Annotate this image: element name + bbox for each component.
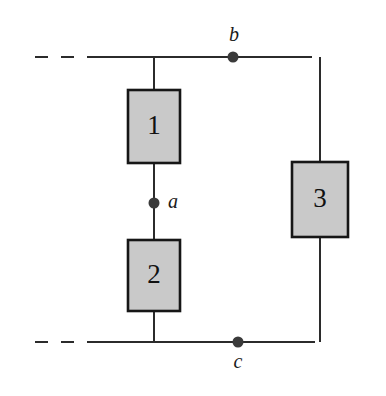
node-c-dot[interactable] <box>233 337 244 348</box>
node-b-dot[interactable] <box>228 52 239 63</box>
circuit-diagram-svg: 1 2 3 a b c <box>0 0 386 396</box>
node-group: a b c <box>149 23 244 372</box>
node-a-dot[interactable] <box>149 198 160 209</box>
component-1-label: 1 <box>147 110 161 140</box>
component-box-1[interactable]: 1 <box>128 90 180 163</box>
component-group: 1 2 3 <box>128 90 348 311</box>
node-b-label: b <box>229 23 239 45</box>
node-b[interactable]: b <box>228 23 240 63</box>
component-3-label: 3 <box>313 183 327 213</box>
node-c[interactable]: c <box>233 337 244 372</box>
node-a-label: a <box>168 190 178 212</box>
component-2-label: 2 <box>147 259 161 289</box>
circuit-diagram-canvas: 1 2 3 a b c <box>0 0 386 396</box>
node-a[interactable]: a <box>149 190 179 212</box>
component-box-3[interactable]: 3 <box>292 162 348 237</box>
component-box-2[interactable]: 2 <box>128 240 180 311</box>
node-c-label: c <box>234 350 243 372</box>
